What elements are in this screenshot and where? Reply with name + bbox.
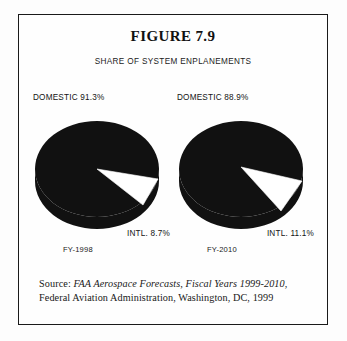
pie-chart-fy-2010: DOMESTIC 88.9% INTL. 11.1% FY-2010 bbox=[171, 93, 316, 263]
page-background: FIGURE 7.9 SHARE OF SYSTEM ENPLANEMENTS … bbox=[0, 0, 347, 341]
figure-subtitle: SHARE OF SYSTEM ENPLANEMENTS bbox=[19, 57, 327, 66]
period-label-1998: FY-1998 bbox=[63, 245, 93, 254]
source-note: Source: FAA Aerospace Forecasts, Fiscal … bbox=[39, 277, 313, 305]
source-prefix: Source: bbox=[39, 278, 73, 289]
pie-graphic-1998 bbox=[31, 113, 163, 231]
pie-chart-fy-1998: DOMESTIC 91.3% INTL. 8.7% FY-1998 bbox=[27, 93, 172, 263]
charts-area: DOMESTIC 91.3% INTL. 8.7% FY-1998 DOMEST… bbox=[19, 93, 329, 263]
intl-share-label-2010: INTL. 11.1% bbox=[267, 229, 314, 238]
figure-title: FIGURE 7.9 bbox=[19, 28, 327, 45]
pie-graphic-2010 bbox=[175, 113, 307, 231]
period-label-2010: FY-2010 bbox=[207, 245, 237, 254]
source-publication: FAA Aerospace Forecasts, Fiscal Years 19… bbox=[73, 278, 284, 289]
domestic-share-label-1998: DOMESTIC 91.3% bbox=[33, 93, 105, 102]
domestic-share-label-2010: DOMESTIC 88.9% bbox=[177, 93, 249, 102]
figure-box: FIGURE 7.9 SHARE OF SYSTEM ENPLANEMENTS … bbox=[18, 14, 328, 325]
intl-share-label-1998: INTL. 8.7% bbox=[127, 229, 170, 238]
